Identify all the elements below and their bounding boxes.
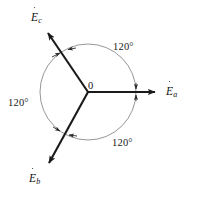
overdot-icon-Ec xyxy=(34,7,36,9)
origin-label: 0 xyxy=(88,80,93,91)
angle-label-bottom-right: 120° xyxy=(112,137,133,148)
overdot-icon-Eb xyxy=(32,168,34,170)
vector-Ec xyxy=(48,33,88,92)
vector-label-Eb-subscript: b xyxy=(36,177,40,186)
phasor-diagram-canvas xyxy=(0,0,197,200)
overdot-icon-Ea xyxy=(169,81,171,83)
arc-arrowhead-eb-right xyxy=(69,135,77,136)
vector-Eb xyxy=(49,92,88,163)
vector-label-Eb-letter: E xyxy=(29,172,36,184)
phasor-diagram-figure: 0 120° 120° 120° E a E b E c xyxy=(0,0,197,200)
vector-label-Ea-base: E xyxy=(166,85,173,97)
arc-arrowhead-eb-left xyxy=(53,127,60,131)
angle-label-top-right: 120° xyxy=(113,41,134,52)
vector-label-Ec-base: E xyxy=(31,11,38,23)
vector-label-Eb-base: E xyxy=(29,172,36,184)
vector-label-Ec-letter: E xyxy=(31,11,38,23)
vector-label-Eb: E b xyxy=(29,172,40,186)
vector-label-Ec: E c xyxy=(31,11,42,25)
vector-label-Ea: E a xyxy=(166,85,177,99)
vector-label-Ea-subscript: a xyxy=(173,90,177,99)
vector-label-Ec-subscript: c xyxy=(38,16,42,25)
angle-label-left: 120° xyxy=(8,97,29,108)
vector-label-Ea-letter: E xyxy=(166,85,173,97)
